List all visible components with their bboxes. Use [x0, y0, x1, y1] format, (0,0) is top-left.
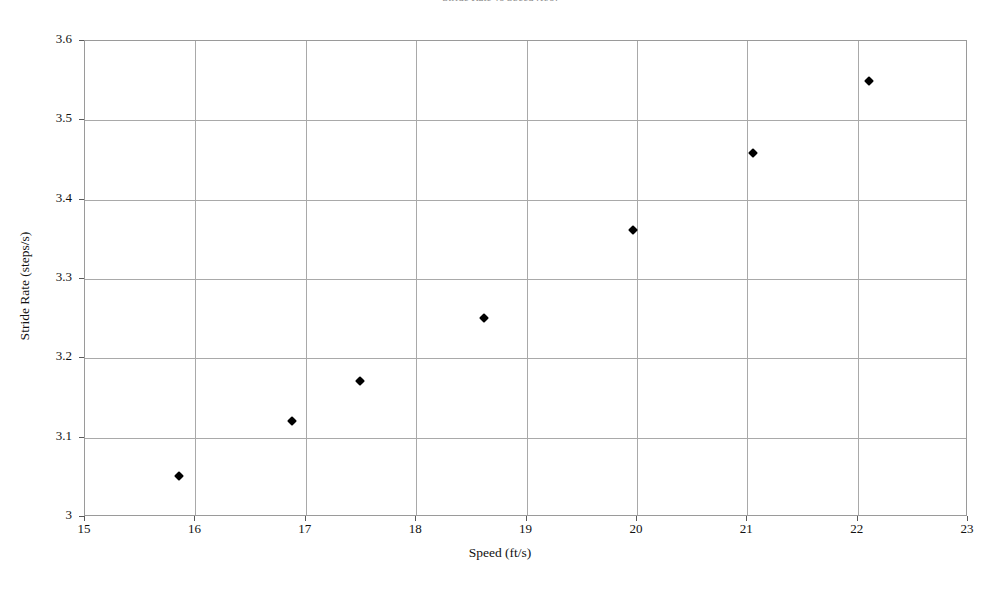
gridline-vertical: [858, 41, 859, 515]
y-tick-mark: [79, 357, 84, 358]
gridline-vertical: [306, 41, 307, 515]
y-tick-mark: [79, 516, 84, 517]
gridline-vertical: [527, 41, 528, 515]
x-axis-title: Speed (ft/s): [0, 545, 1000, 561]
y-tick-mark: [79, 278, 84, 279]
y-tick-label: 3.2: [22, 348, 72, 364]
x-tick-label: 18: [395, 521, 435, 537]
chart-title: Stride Rate vs Speed (ft/s): [0, 0, 1000, 1]
y-tick-label: 3.5: [22, 110, 72, 126]
x-tick-label: 17: [285, 521, 325, 537]
y-tick-mark: [79, 40, 84, 41]
y-axis-title: Stride Rate (steps/s): [17, 201, 33, 371]
y-tick-label: 3: [22, 507, 72, 523]
gridline-horizontal: [85, 438, 966, 439]
x-tick-label: 21: [726, 521, 766, 537]
y-tick-mark: [79, 437, 84, 438]
gridline-horizontal: [85, 120, 966, 121]
y-tick-label: 3.4: [22, 190, 72, 206]
y-tick-label: 3.6: [22, 31, 72, 47]
gridline-horizontal: [85, 358, 966, 359]
gridline-vertical: [637, 41, 638, 515]
x-tick-label: 15: [64, 521, 104, 537]
gridline-vertical: [195, 41, 196, 515]
scatter-chart: Stride Rate vs Speed (ft/s) Speed (ft/s)…: [0, 0, 1000, 597]
y-tick-label: 3.3: [22, 269, 72, 285]
x-tick-label: 23: [947, 521, 987, 537]
x-tick-label: 20: [616, 521, 656, 537]
gridline-vertical: [416, 41, 417, 515]
x-tick-label: 19: [506, 521, 546, 537]
gridline-horizontal: [85, 200, 966, 201]
plot-area: [84, 40, 967, 516]
y-tick-label: 3.1: [22, 428, 72, 444]
gridline-horizontal: [85, 279, 966, 280]
y-tick-mark: [79, 119, 84, 120]
gridline-vertical: [747, 41, 748, 515]
x-tick-label: 22: [837, 521, 877, 537]
y-tick-mark: [79, 199, 84, 200]
x-tick-label: 16: [174, 521, 214, 537]
